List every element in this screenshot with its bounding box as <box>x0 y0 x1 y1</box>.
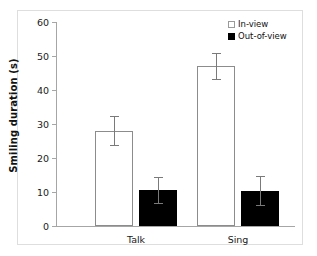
y-axis-tick-mark <box>52 90 56 91</box>
x-axis-line <box>56 226 295 227</box>
y-axis-tick-mark <box>52 158 56 159</box>
y-axis-tick-mark <box>52 56 56 57</box>
error-bar-cap-top <box>110 116 119 117</box>
y-axis-tick-mark <box>52 226 56 227</box>
error-bar-cap-bottom <box>256 205 265 206</box>
y-axis-tick-label: 60 <box>37 17 49 28</box>
chart-legend: In-viewOut-of-view <box>228 19 287 43</box>
error-bar <box>260 176 261 207</box>
legend-item: In-view <box>228 19 287 30</box>
y-axis-tick-label: 0 <box>43 221 49 232</box>
y-axis-tick-label: 10 <box>37 187 49 198</box>
legend-item: Out-of-view <box>228 31 287 42</box>
error-bar-cap-bottom <box>110 145 119 146</box>
legend-item-label: Out-of-view <box>238 31 287 42</box>
x-axis-category-label: Sing <box>228 234 249 245</box>
error-bar-cap-top <box>256 176 265 177</box>
bar-in-view-sing <box>197 66 235 226</box>
y-axis-tick-mark <box>52 22 56 23</box>
y-axis-tick-label: 30 <box>37 119 49 130</box>
legend-item-label: In-view <box>238 19 268 30</box>
chart-figure: Smiling duration (s) 6050403020100 TalkS… <box>0 0 317 256</box>
error-bar-cap-top <box>154 177 163 178</box>
error-bar-cap-top <box>212 53 221 54</box>
bar-group <box>95 22 177 226</box>
error-bar-cap-bottom <box>154 203 163 204</box>
error-bar <box>114 116 115 147</box>
error-bar <box>158 177 159 204</box>
y-axis-tick-label: 40 <box>37 85 49 96</box>
bar-group <box>197 22 279 226</box>
y-axis-line <box>56 22 57 227</box>
x-axis-category-label: Talk <box>127 234 145 245</box>
open-square-swatch <box>228 21 235 28</box>
error-bar-cap-bottom <box>212 79 221 80</box>
y-axis-tick-label: 50 <box>37 51 49 62</box>
y-axis-tick-label: 20 <box>37 153 49 164</box>
y-axis-title: Smiling duration (s) <box>8 41 19 191</box>
plot-area: 6050403020100 TalkSing <box>56 22 295 227</box>
filled-square-swatch <box>228 33 235 40</box>
error-bar <box>216 53 217 80</box>
y-axis-tick-mark <box>52 124 56 125</box>
y-axis-tick-mark <box>52 192 56 193</box>
